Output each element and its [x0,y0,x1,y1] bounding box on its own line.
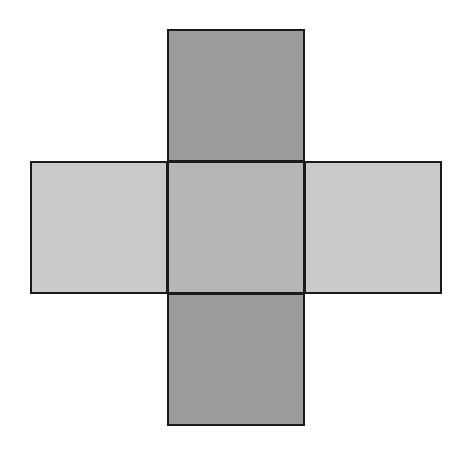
face-bottom [167,293,305,426]
face-right [304,161,442,294]
face-top [167,29,305,162]
cube-net-diagram [0,0,463,455]
face-center [167,161,305,294]
face-left [30,161,168,294]
